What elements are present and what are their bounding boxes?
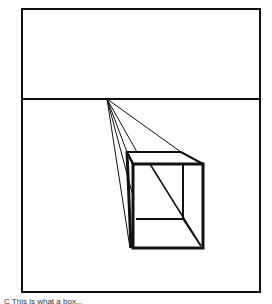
vanishing-lines	[107, 99, 181, 248]
box-front-face	[133, 164, 203, 248]
box	[127, 152, 203, 248]
perspective-drawing	[0, 0, 272, 304]
figure-caption: C This is what a box...	[4, 296, 83, 304]
box-top-face	[127, 152, 203, 164]
picture-frame	[22, 9, 260, 292]
